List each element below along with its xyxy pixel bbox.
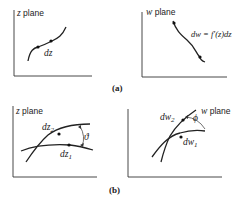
- dw2-label: dw2: [160, 112, 175, 124]
- panel-b-z-plane: z plane ϑ dz2 dz1: [13, 106, 97, 177]
- w-plane-label: w plane: [146, 7, 176, 17]
- point-dw2: [181, 118, 184, 121]
- point-dw-end: [198, 55, 201, 58]
- point-dz-end: [49, 39, 52, 42]
- dz-label: dz: [44, 48, 53, 58]
- w-plane-axes: [142, 12, 227, 77]
- panel-b-w-plane: w plane ϕ dw2 dw1: [128, 106, 231, 177]
- dz1-label: dz1: [60, 149, 72, 161]
- angle-theta: ϑ: [84, 132, 90, 142]
- dw1-label: dw1: [183, 137, 198, 149]
- point-dz1: [67, 143, 70, 146]
- w-plane-axes-b: [128, 109, 222, 177]
- dz2-label: dz2: [42, 122, 54, 134]
- z-plane-axes: [14, 10, 92, 76]
- point-dz2: [57, 132, 60, 135]
- conformal-mapping-diagram: z plane dz w plane dw = f′(z)dz (a) z pl…: [0, 0, 250, 203]
- point-dz-start: [36, 45, 39, 48]
- angle-phi: ϕ: [193, 113, 198, 123]
- panel-a-z-plane: z plane dz: [14, 8, 92, 76]
- z-plane-label: z plane: [16, 8, 44, 18]
- caption-a: (a): [112, 83, 123, 93]
- curve-2: [26, 124, 90, 162]
- w-plane-label-b: w plane: [201, 106, 231, 116]
- mapping-label: dw = f′(z)dz: [191, 29, 232, 39]
- z-plane-label-b: z plane: [15, 106, 43, 116]
- point-dw-start: [172, 21, 175, 24]
- caption-b: (b): [109, 185, 120, 195]
- panel-a-w-plane: w plane dw = f′(z)dz: [142, 7, 232, 77]
